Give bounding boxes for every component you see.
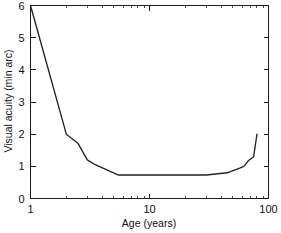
y-tick-label: 0 — [18, 193, 24, 205]
y-tick-label: 6 — [18, 0, 24, 12]
x-tick-label: 100 — [259, 203, 277, 215]
y-tick-label: 2 — [18, 128, 24, 140]
y-tick-label: 4 — [18, 64, 24, 76]
visual-acuity-line-chart: 110100 0123456 Age (years) Visual acuity… — [0, 0, 281, 233]
x-tick-label: 10 — [143, 203, 155, 215]
chart-figure: 110100 0123456 Age (years) Visual acuity… — [0, 0, 281, 233]
x-tick-label: 1 — [27, 203, 33, 215]
y-axis-title: Visual acuity (min arc) — [2, 49, 14, 152]
y-tick-label: 3 — [18, 96, 24, 108]
y-tick-label: 1 — [18, 160, 24, 172]
x-axis-title: Age (years) — [122, 217, 176, 229]
y-tick-label: 5 — [18, 32, 24, 44]
